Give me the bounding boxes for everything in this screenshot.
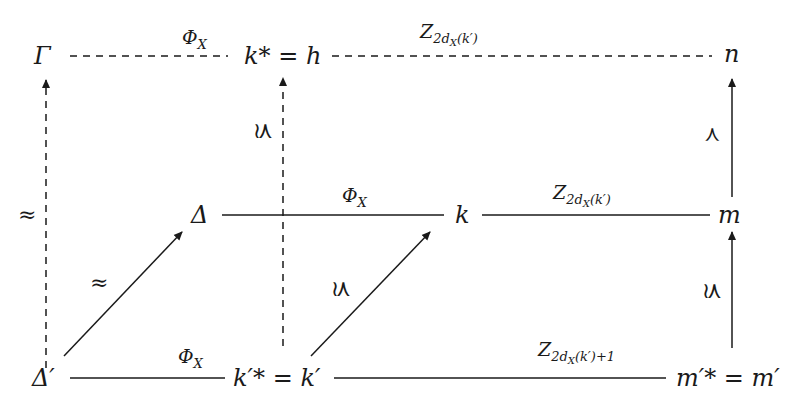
node-delta: Δ (191, 203, 208, 227)
z-subsubscript: X (450, 37, 457, 48)
node-kprimestar: k′* (233, 364, 265, 392)
label-prec-n: ≺ (704, 124, 721, 144)
label-precsim-m: ≾ (704, 280, 722, 302)
phi-subscript: X (358, 195, 367, 210)
phi-symbol: Φ (178, 345, 194, 367)
precsim-symbol: ≾ (702, 282, 724, 300)
equals-sign: = (278, 42, 298, 70)
equals-sign: = (273, 364, 293, 392)
node-delta-prime: Δ′ (32, 366, 55, 390)
commutative-diagram: Γ k* = h n Δ k m Δ′ k′* = k′ m′* = m′ ΦX… (0, 0, 801, 402)
precsim-symbol: ≾ (253, 122, 275, 140)
equals-sign: = (724, 364, 744, 392)
phi-symbol: Φ (182, 26, 198, 48)
edge-deltaprime-to-delta (64, 232, 182, 356)
phi-subscript: X (198, 37, 207, 52)
node-kstar: k* (244, 42, 271, 70)
z-subsubscript: X (568, 355, 575, 366)
label-approx-diagonal: ≈ (90, 272, 108, 294)
label-z-bottom: Z2dX(k′)+1 (538, 340, 615, 366)
label-approx-left: ≈ (18, 204, 36, 226)
z-symbol: Z (420, 20, 433, 42)
node-kprimestar-eq-kprime: k′* = k′ (233, 366, 320, 390)
label-z-middle: Z2dX(k′) (553, 183, 611, 209)
label-phi-top: ΦX (182, 28, 207, 51)
node-k: k (455, 203, 470, 227)
node-mprime: m′ (752, 364, 780, 392)
node-kstar-eq-h: k* = h (244, 44, 321, 68)
z-subscript: 2d (566, 192, 583, 207)
z-subscript: 2d (551, 349, 568, 364)
label-precsim-diagonal: ≾ (333, 278, 351, 300)
label-phi-middle: ΦX (342, 186, 367, 209)
z-symbol: Z (538, 338, 551, 360)
diagram-edges (0, 0, 801, 402)
phi-symbol: Φ (342, 184, 358, 206)
node-kprime: k′ (300, 364, 320, 392)
z-subscript: 2d (433, 31, 450, 46)
z-argument: (k′) (590, 192, 611, 207)
node-n: n (724, 42, 739, 66)
z-argument: (k′)+1 (575, 349, 615, 364)
label-z-top: Z2dX(k′) (420, 22, 478, 48)
label-phi-bottom: ΦX (178, 347, 203, 370)
label-precsim-kstar: ≾ (255, 120, 273, 142)
z-symbol: Z (553, 181, 566, 203)
node-mprimestar: m′* (676, 364, 716, 392)
z-argument: (k′) (457, 31, 478, 46)
z-subsubscript: X (583, 198, 590, 209)
node-gamma: Γ (34, 44, 51, 68)
node-mprimestar-eq-mprime: m′* = m′ (676, 366, 780, 390)
precsim-symbol: ≾ (331, 280, 353, 298)
node-h: h (306, 42, 321, 70)
phi-subscript: X (194, 356, 203, 371)
node-m: m (718, 203, 741, 227)
edge-kprime-to-k (311, 232, 430, 356)
